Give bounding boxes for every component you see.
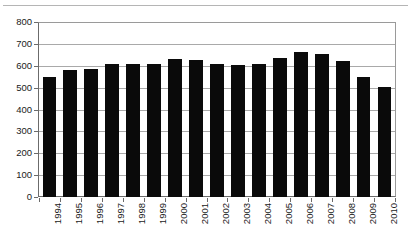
x-axis-tick-label: 2000 bbox=[179, 203, 189, 224]
y-axis-tick-label: 400 bbox=[2, 105, 38, 115]
x-axis-tick-label: 1997 bbox=[116, 203, 126, 224]
x-axis-tick-label: 2004 bbox=[263, 203, 273, 224]
x-axis-tick-label: 2003 bbox=[242, 203, 252, 224]
x-axis-tick-mark bbox=[102, 198, 103, 202]
y-axis-tick-mark bbox=[34, 88, 38, 89]
bar-slot bbox=[269, 23, 290, 197]
x-axis-tick-label: 2002 bbox=[221, 203, 231, 224]
bar-slot bbox=[374, 23, 395, 197]
x-axis-tick-label: 1999 bbox=[158, 203, 168, 224]
x-axis-tick-label: 2001 bbox=[200, 203, 210, 224]
x-axis-tick-mark bbox=[227, 198, 228, 202]
x-axis-tick-mark bbox=[311, 198, 312, 202]
bar bbox=[273, 58, 287, 197]
x-axis: 1994199519961997199819992000200120022003… bbox=[39, 198, 395, 235]
x-axis-tick-label: 2005 bbox=[284, 203, 294, 224]
y-axis-tick-label: 100 bbox=[2, 170, 38, 180]
bar-slot bbox=[123, 23, 144, 197]
bar-slot bbox=[60, 23, 81, 197]
bar bbox=[315, 54, 329, 197]
bar-series bbox=[39, 23, 395, 197]
x-axis-tick-mark bbox=[144, 198, 145, 202]
bar bbox=[84, 69, 98, 197]
bar-slot bbox=[39, 23, 60, 197]
y-axis-tick-mark bbox=[34, 110, 38, 111]
x-axis-tick-mark bbox=[123, 198, 124, 202]
top-divider bbox=[3, 5, 408, 6]
bar bbox=[105, 64, 119, 197]
x-axis-tick-label: 1994 bbox=[53, 203, 63, 224]
bar-slot bbox=[227, 23, 248, 197]
bar bbox=[43, 77, 57, 197]
x-axis-tick-label: 2006 bbox=[305, 203, 315, 224]
y-axis-tick-mark bbox=[34, 153, 38, 154]
y-axis-tick-label: 800 bbox=[2, 17, 38, 27]
bar bbox=[126, 64, 140, 197]
bar-slot bbox=[353, 23, 374, 197]
x-axis-tick-label: 1995 bbox=[74, 203, 84, 224]
x-axis-tick-mark bbox=[165, 198, 166, 202]
bar bbox=[63, 70, 77, 197]
y-axis-tick-label: 700 bbox=[2, 39, 38, 49]
y-axis-tick-mark bbox=[34, 66, 38, 67]
x-axis-tick-mark bbox=[353, 198, 354, 202]
bar bbox=[357, 77, 371, 197]
y-axis-tick-label: 300 bbox=[2, 127, 38, 137]
x-axis-tick-mark bbox=[374, 198, 375, 202]
x-axis-tick-label: 1998 bbox=[137, 203, 147, 224]
bar-slot bbox=[290, 23, 311, 197]
x-axis-tick-mark bbox=[269, 198, 270, 202]
y-axis-tick-label: 200 bbox=[2, 149, 38, 159]
y-axis-tick-label: 0 bbox=[2, 192, 38, 202]
y-axis-tick-mark bbox=[34, 197, 38, 198]
bar-slot bbox=[311, 23, 332, 197]
x-axis-tick-label: 1996 bbox=[95, 203, 105, 224]
bar-slot bbox=[81, 23, 102, 197]
bar bbox=[210, 64, 224, 197]
y-axis-tick-mark bbox=[34, 44, 38, 45]
y-axis-tick-mark bbox=[34, 175, 38, 176]
bar-slot bbox=[165, 23, 186, 197]
bar-slot bbox=[207, 23, 228, 197]
bar bbox=[231, 65, 245, 197]
x-axis-tick-mark bbox=[60, 198, 61, 202]
x-axis-tick-mark bbox=[39, 198, 40, 202]
bar-slot bbox=[102, 23, 123, 197]
bar bbox=[189, 60, 203, 197]
bar-slot bbox=[332, 23, 353, 197]
bar bbox=[294, 52, 308, 197]
x-axis-tick-label: 2009 bbox=[368, 203, 378, 224]
x-axis-tick-mark bbox=[207, 198, 208, 202]
bar bbox=[252, 64, 266, 197]
x-axis-tick-mark bbox=[395, 198, 396, 202]
x-axis-tick-mark bbox=[81, 198, 82, 202]
bar-slot bbox=[186, 23, 207, 197]
x-axis-tick-mark bbox=[332, 198, 333, 202]
bar bbox=[336, 61, 350, 197]
y-axis-tick-mark bbox=[34, 131, 38, 132]
y-axis-tick-mark bbox=[34, 22, 38, 23]
x-axis-tick-label: 2008 bbox=[347, 203, 357, 224]
x-axis-tick-label: 2007 bbox=[326, 203, 336, 224]
bar bbox=[378, 87, 392, 197]
bar bbox=[147, 64, 161, 197]
x-axis-tick-label: 2010 bbox=[389, 203, 399, 224]
bar-slot bbox=[144, 23, 165, 197]
bar-chart: 8007006005004003002001000 19941995199619… bbox=[0, 0, 411, 235]
y-axis-tick-label: 600 bbox=[2, 61, 38, 71]
x-axis-tick-mark bbox=[248, 198, 249, 202]
x-axis-tick-mark bbox=[186, 198, 187, 202]
bar-slot bbox=[248, 23, 269, 197]
x-axis-tick-mark bbox=[290, 198, 291, 202]
bar bbox=[168, 59, 182, 197]
y-axis-tick-label: 500 bbox=[2, 83, 38, 93]
